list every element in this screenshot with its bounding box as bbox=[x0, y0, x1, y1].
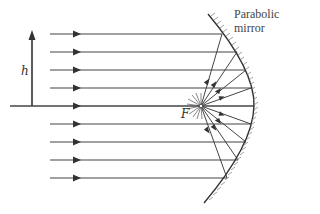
focus-point bbox=[199, 104, 203, 108]
focus-label: F bbox=[181, 107, 189, 121]
height-arrow bbox=[29, 30, 36, 106]
height-label: h bbox=[21, 64, 29, 78]
parabolic-mirror bbox=[204, 13, 258, 203]
mirror-label-line2: mirror bbox=[234, 21, 279, 35]
mirror-label-line1: Parabolic bbox=[234, 7, 279, 21]
mirror-label: Parabolic mirror bbox=[234, 7, 279, 35]
